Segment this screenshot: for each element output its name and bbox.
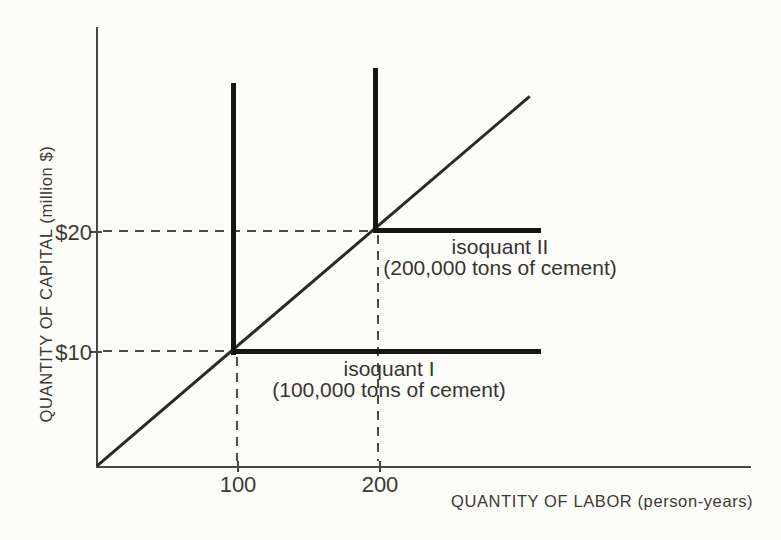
dashed-guide-capital-20 [103,230,374,232]
y-axis-line [96,27,98,468]
isoquant-1-label: isoquant I (100,000 tons of cement) [272,358,505,400]
isoquant-2-name: isoquant II [383,236,616,257]
isoquant-2-label: isoquant II (200,000 tons of cement) [383,236,616,278]
x-tick-label-100: 100 [220,472,257,498]
expansion-ray-line [96,95,531,467]
x-axis-title: QUANTITY OF LABOR (person-years) [451,492,751,511]
x-tick-label-200: 200 [362,472,399,498]
x-tick-mark-200 [379,461,381,472]
isoquant-1-name: isoquant I [272,358,505,379]
isoquant-chart: QUANTITY OF CAPITAL (million $) QUANTITY… [0,0,781,540]
y-axis-title: QUANTITY OF CAPITAL (million $) [37,146,56,423]
y-tick-label-20: $20 [28,220,92,246]
dashed-guide-capital-10 [103,350,232,352]
dashed-guide-labor-200 [377,235,379,461]
dashed-guide-labor-100 [236,357,238,461]
y-tick-label-10: $10 [28,340,92,366]
isoquant-2-caption: (200,000 tons of cement) [383,257,616,278]
isoquant-1-horizontal-segment [231,349,541,354]
x-axis-line [96,466,751,468]
isoquant-1-vertical-segment [231,83,236,355]
isoquant-2-horizontal-segment [373,228,541,233]
isoquant-2-vertical-segment [373,68,378,233]
isoquant-1-caption: (100,000 tons of cement) [272,379,505,400]
x-tick-mark-100 [237,461,239,472]
